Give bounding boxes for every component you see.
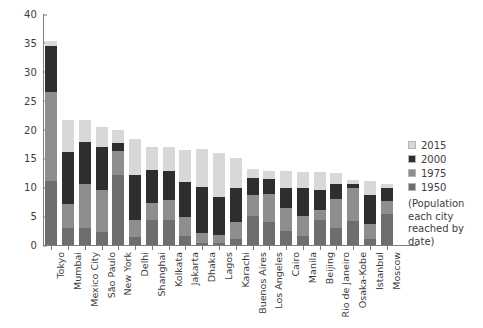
bar-segment-1950 <box>263 222 275 245</box>
bar-segment-1950 <box>230 239 242 245</box>
bar-segment-2015 <box>45 41 57 46</box>
legend-note-line-4: date) <box>408 236 483 249</box>
bar-segment-2015 <box>381 184 393 189</box>
x-tick-mark <box>269 246 270 250</box>
bar-segment-1950 <box>45 181 57 245</box>
x-tick-mark <box>370 246 371 250</box>
x-label-shanghai: Shanghai <box>156 252 168 296</box>
bar-segment-2000 <box>347 184 359 189</box>
x-tick-mark <box>85 246 86 250</box>
y-tick-40: 40 <box>24 9 43 20</box>
bar-cairo[interactable] <box>280 171 292 245</box>
bar-segment-1975 <box>330 199 342 227</box>
bar-segment-1975 <box>230 222 242 239</box>
bar-segment-2015 <box>263 171 275 179</box>
y-tick-15: 15 <box>24 153 43 164</box>
x-label-mexico-city: Mexico City <box>89 252 101 307</box>
bar-segment-2015 <box>62 120 74 152</box>
bar-kolkata[interactable] <box>163 147 175 245</box>
bar-segment-2000 <box>230 188 242 221</box>
bar-segment-1975 <box>96 190 108 232</box>
y-tick-20: 20 <box>24 124 43 135</box>
y-tick-35: 35 <box>24 37 43 48</box>
bar-segment-1950 <box>96 232 108 245</box>
bar-segment-2015 <box>196 149 208 187</box>
bar-segment-2015 <box>330 173 342 184</box>
bar-segment-2000 <box>330 184 342 199</box>
bar-segment-2015 <box>213 153 225 197</box>
x-tick-mark <box>169 246 170 250</box>
bar-segment-1975 <box>280 208 292 231</box>
bar-moscow[interactable] <box>381 184 393 245</box>
y-tick-5: 5 <box>30 211 43 222</box>
bar-segment-2000 <box>196 187 208 233</box>
x-tick-mark <box>253 246 254 250</box>
bar-los-angeles[interactable] <box>263 171 275 245</box>
bar-segment-1975 <box>263 194 275 222</box>
y-tick-30: 30 <box>24 66 43 77</box>
legend-swatch-2000-icon <box>408 155 416 163</box>
bar-segment-2015 <box>146 147 158 170</box>
x-label-delhi: Delhi <box>139 252 151 276</box>
bar-segment-1950 <box>196 243 208 245</box>
bar-segment-2000 <box>112 143 124 152</box>
bar-segment-2000 <box>280 188 292 208</box>
bar-segment-2000 <box>163 171 175 200</box>
bar-mexico-city[interactable] <box>79 120 91 245</box>
bar-segment-2015 <box>112 130 124 143</box>
bar-segment-1950 <box>146 220 158 245</box>
bar-segment-1975 <box>129 220 141 237</box>
x-tick-mark <box>303 246 304 250</box>
x-label-manila: Manila <box>307 252 319 283</box>
bar-delhi[interactable] <box>129 139 141 245</box>
bar-jakarta[interactable] <box>179 150 191 245</box>
x-label-s-o-paulo: São Paulo <box>106 252 118 298</box>
x-tick-mark <box>387 246 388 250</box>
x-label-mumbai: Mumbai <box>72 252 84 290</box>
bar-segment-1950 <box>280 231 292 245</box>
bar-segment-2015 <box>96 127 108 147</box>
x-label-buenos-aires: Buenos Aires <box>257 252 269 314</box>
bar-segment-1950 <box>247 216 259 245</box>
bar-segment-2000 <box>96 147 108 190</box>
x-label-new-york: New York <box>122 252 134 296</box>
bar-shanghai[interactable] <box>146 147 158 245</box>
legend-label-1950: 1950 <box>421 182 446 193</box>
bar-mumbai[interactable] <box>62 120 74 245</box>
bar-s-o-paulo[interactable] <box>96 127 108 245</box>
bar-segment-2015 <box>247 169 259 178</box>
x-label-tokyo: Tokyo <box>55 252 67 279</box>
bar-segment-1950 <box>347 221 359 245</box>
chart-figure: 0510152025303540 TokyoMumbaiMexico CityS… <box>0 0 483 328</box>
x-tick-mark <box>202 246 203 250</box>
x-tick-mark <box>51 246 52 250</box>
bar-beijing[interactable] <box>314 172 326 245</box>
bar-segment-1975 <box>79 184 91 228</box>
bar-tokyo[interactable] <box>45 41 57 245</box>
bar-istanbul[interactable] <box>364 181 376 245</box>
legend-item-2015: 2015 <box>408 138 483 152</box>
bar-segment-1975 <box>247 195 259 216</box>
bar-segment-2000 <box>314 190 326 211</box>
bar-rio-de-janeiro[interactable] <box>330 173 342 245</box>
x-label-jakarta: Jakarta <box>189 252 201 285</box>
x-axis-category-labels: TokyoMumbaiMexico CitySão PauloNew YorkD… <box>43 252 395 328</box>
bar-dhaka[interactable] <box>196 149 208 245</box>
bar-segment-1950 <box>79 228 91 245</box>
bar-segment-1975 <box>146 203 158 220</box>
x-tick-mark <box>286 246 287 250</box>
chart-legend: 2015 2000 1975 1950 (Population each cit… <box>408 138 483 248</box>
bar-segment-1950 <box>129 237 141 245</box>
x-label-istanbul: Istanbul <box>374 252 386 290</box>
x-label-lagos: Lagos <box>223 252 235 280</box>
bar-manila[interactable] <box>297 172 309 245</box>
bar-buenos-aires[interactable] <box>247 169 259 245</box>
bar-osaka-kobe[interactable] <box>347 180 359 245</box>
bar-segment-2015 <box>314 172 326 190</box>
bar-new-york[interactable] <box>112 130 124 245</box>
bar-karachi[interactable] <box>230 158 242 245</box>
bar-segment-2000 <box>62 152 74 204</box>
bar-series-container <box>43 14 395 245</box>
y-tick-10: 10 <box>24 182 43 193</box>
bar-lagos[interactable] <box>213 153 225 245</box>
